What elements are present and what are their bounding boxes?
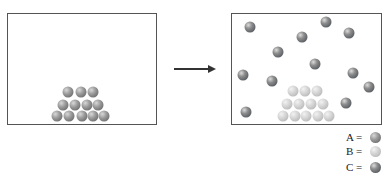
reaction-arrow-shaft <box>174 68 210 70</box>
legend-item-a: A = <box>346 130 381 144</box>
sphere-a-icon <box>77 111 88 122</box>
sphere-b-icon <box>282 99 293 110</box>
sphere-c-icon <box>364 82 375 93</box>
reaction-arrow-head-icon <box>208 65 216 73</box>
sphere-a-icon <box>82 100 93 111</box>
sphere-c-icon <box>245 22 256 33</box>
sphere-b-icon <box>290 111 301 122</box>
sphere-c-icon <box>341 98 352 109</box>
sphere-b-icon <box>370 146 381 157</box>
sphere-c-icon <box>273 47 284 58</box>
legend-item-c: C = <box>346 160 381 174</box>
sphere-b-icon <box>318 99 329 110</box>
sphere-c-icon <box>344 28 355 39</box>
sphere-c-icon <box>238 70 249 81</box>
sphere-c-icon <box>297 32 308 43</box>
sphere-a-icon <box>88 111 99 122</box>
sphere-a-icon <box>64 111 75 122</box>
sphere-c-icon <box>348 68 359 79</box>
legend-label-a: A = <box>346 131 368 143</box>
sphere-a-icon <box>58 100 69 111</box>
sphere-b-icon <box>312 86 323 97</box>
legend-item-b: B = <box>346 144 381 158</box>
sphere-a-icon <box>99 111 110 122</box>
legend-label-c: C = <box>346 161 368 173</box>
sphere-a-icon <box>370 132 381 143</box>
sphere-c-icon <box>241 107 252 118</box>
sphere-b-icon <box>313 111 324 122</box>
sphere-c-icon <box>370 162 381 173</box>
sphere-b-icon <box>278 111 289 122</box>
sphere-b-icon <box>288 86 299 97</box>
sphere-a-icon <box>88 87 99 98</box>
sphere-b-icon <box>294 99 305 110</box>
sphere-b-icon <box>324 111 335 122</box>
sphere-b-icon <box>300 86 311 97</box>
sphere-a-icon <box>52 111 63 122</box>
legend-label-b: B = <box>346 145 368 157</box>
sphere-b-icon <box>301 111 312 122</box>
sphere-c-icon <box>321 17 332 28</box>
sphere-c-icon <box>267 76 278 87</box>
sphere-a-icon <box>63 87 74 98</box>
sphere-a-icon <box>76 87 87 98</box>
sphere-a-icon <box>93 100 104 111</box>
sphere-c-icon <box>310 59 321 70</box>
sphere-a-icon <box>70 100 81 111</box>
sphere-b-icon <box>306 99 317 110</box>
